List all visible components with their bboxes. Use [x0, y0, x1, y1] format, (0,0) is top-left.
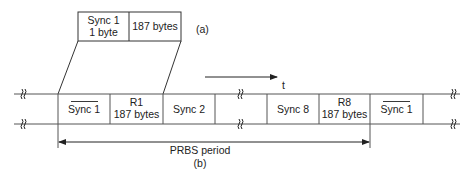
figure-b-label: (b)	[194, 157, 207, 169]
cell-sync8: Sync 8	[277, 103, 309, 115]
svg-text:R8: R8	[338, 96, 352, 108]
break-right-icon	[451, 89, 456, 129]
sync-byte-size: 1 byte	[89, 26, 118, 38]
payload-size: 187 bytes	[132, 20, 178, 32]
prbs-period-label: PRBS period	[170, 144, 231, 156]
svg-text:Sync 1: Sync 1	[380, 103, 412, 115]
figure-a-label: (a)	[196, 23, 209, 35]
svg-text:R1: R1	[130, 96, 144, 108]
sync-byte-label: Sync 1	[87, 14, 119, 26]
break-left-icon	[21, 89, 26, 129]
time-axis-label: t	[282, 79, 285, 91]
cell-sync1-inverted: Sync 1	[68, 102, 100, 116]
expansion-line-right	[163, 41, 181, 94]
cell-r8: R8 187 bytes	[322, 96, 368, 120]
svg-text:Sync 1: Sync 1	[68, 103, 100, 115]
svg-text:187 bytes: 187 bytes	[114, 108, 160, 120]
transport-stream-diagram: Sync 1 1 byte 187 bytes (a) t	[0, 0, 475, 178]
time-axis: t	[205, 77, 285, 91]
cell-sync2: Sync 2	[173, 103, 205, 115]
svg-text:Sync 2: Sync 2	[173, 103, 205, 115]
svg-text:Sync 8: Sync 8	[277, 103, 309, 115]
packet-structure-a: Sync 1 1 byte 187 bytes (a)	[58, 12, 209, 94]
break-middle-icon	[238, 89, 243, 129]
expansion-line-left	[58, 41, 78, 94]
cell-r1: R1 187 bytes	[114, 96, 160, 120]
stream-strip-b: Sync 1 R1 187 bytes Sync 2 Sync 8 R8 187…	[14, 89, 460, 169]
cell-sync1-inverted-repeat: Sync 1	[380, 102, 412, 116]
svg-text:187 bytes: 187 bytes	[322, 108, 368, 120]
